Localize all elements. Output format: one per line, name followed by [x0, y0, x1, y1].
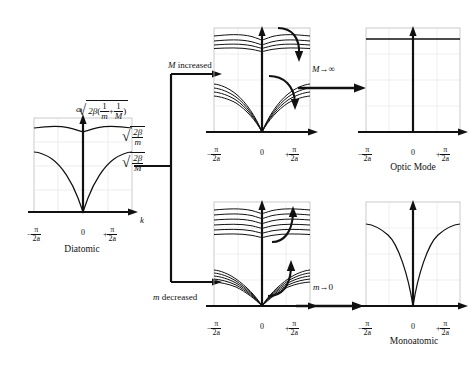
formula-fraction-2: 1M	[114, 102, 124, 122]
x-axis-arrowhead	[458, 128, 468, 135]
caption-diatomic: Diatomic	[42, 244, 122, 254]
tick-minus-pi-2a: −π2a	[198, 320, 230, 338]
x-axis-arrowhead	[308, 128, 318, 135]
monoatomic-plot	[358, 196, 470, 324]
tick-zero: 0	[251, 148, 273, 157]
tick-minus-pi-2a: −π2a	[198, 146, 230, 164]
arrow-m-to-infinity	[298, 78, 366, 98]
acoustic-trend-arrowhead	[291, 99, 299, 110]
optic-mode-plot	[358, 22, 470, 150]
label-m-decreased: m decreased	[153, 292, 197, 302]
tick-fraction: π2a	[107, 226, 117, 244]
optic-trend-arrowhead	[295, 51, 303, 62]
caption-optic-mode: Optic Mode	[366, 162, 460, 172]
tick-fraction: π2a	[31, 226, 41, 244]
optic-trend-arrow	[278, 28, 299, 54]
formula-den-2: M	[114, 112, 124, 121]
x-axis-arrowhead	[458, 302, 468, 309]
radical-sign: √	[122, 155, 130, 170]
tick-denominator: 2a	[289, 329, 299, 337]
formula-optic-zone-center: √2β(1m+1M)	[78, 100, 128, 122]
tick-fraction: π2a	[211, 146, 221, 164]
formula-coefficient: 2β	[88, 106, 97, 116]
formula-paren-close: )	[123, 106, 126, 116]
tick-fraction: π2a	[289, 320, 299, 338]
label-m-to-zero: m→0	[313, 282, 333, 292]
label-m-to-infinity: M→∞	[312, 64, 335, 74]
y-axis-arrowhead	[409, 200, 416, 210]
tick-denominator: 2a	[31, 235, 41, 243]
tick-plus-pi-2a: +π2a	[276, 320, 308, 338]
tick-denominator: 2a	[211, 155, 221, 163]
radical-sign: √	[122, 129, 130, 144]
tick-denominator: 2a	[211, 329, 221, 337]
optic-trend-arrowhead	[289, 206, 297, 217]
y-axis-arrowhead	[409, 26, 416, 36]
tick-denominator: 2a	[289, 155, 299, 163]
panel-monoatomic: −π2a 0 +π2a Monoatomic	[358, 196, 470, 324]
tick-fraction: π2a	[289, 146, 299, 164]
tick-denominator: 2a	[107, 235, 117, 243]
tick-zero: 0	[402, 148, 424, 157]
tick-plus-pi-2a: +π2a	[94, 226, 126, 244]
arrow-m-to-zero	[296, 296, 364, 316]
label-text: →0	[320, 282, 334, 292]
tick-zero: 0	[251, 322, 273, 331]
label-text: →∞	[320, 64, 335, 74]
tick-plus-pi-2a: +π2a	[276, 146, 308, 164]
tick-zero: 0	[402, 322, 424, 331]
tick-minus-pi-2a: −π2a	[18, 226, 50, 244]
label-symbol: M	[312, 64, 320, 74]
y-axis-arrowhead	[258, 200, 265, 210]
y-axis-arrowhead	[258, 26, 265, 36]
acoustic-trend-arrowhead	[287, 260, 295, 271]
label-symbol: M	[168, 60, 176, 70]
radical-body: 2β(1m+1M)	[86, 100, 128, 122]
radical-sign: √	[78, 103, 86, 118]
formula-fraction-1: 1m	[100, 102, 109, 122]
label-text: decreased	[160, 292, 198, 302]
figure-canvas: ω k −π2a 0 +π2a Diatomic √2β(1m+1M) √2βm…	[0, 0, 474, 373]
tick-zero: 0	[72, 228, 94, 237]
panel-optic-mode: −π2a 0 +π2a Optic Mode	[358, 22, 470, 150]
caption-monoatomic: Monoatomic	[364, 336, 464, 346]
tick-fraction: π2a	[211, 320, 221, 338]
formula-den-1: m	[100, 112, 109, 121]
